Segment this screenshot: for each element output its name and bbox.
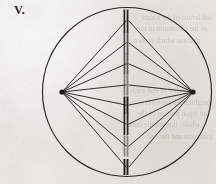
figure-v-metaphase-cell: soliferous of the nature of the chromati…: [0, 0, 216, 184]
spindle-fibres-right: [129, 21, 193, 167]
spindle-pole-left: [59, 89, 64, 94]
chromosome-group: [124, 10, 127, 176]
spindle-pole-right: [190, 89, 195, 94]
metaphase-diagram: [0, 0, 216, 184]
spindle-fibres-left: [62, 21, 126, 167]
